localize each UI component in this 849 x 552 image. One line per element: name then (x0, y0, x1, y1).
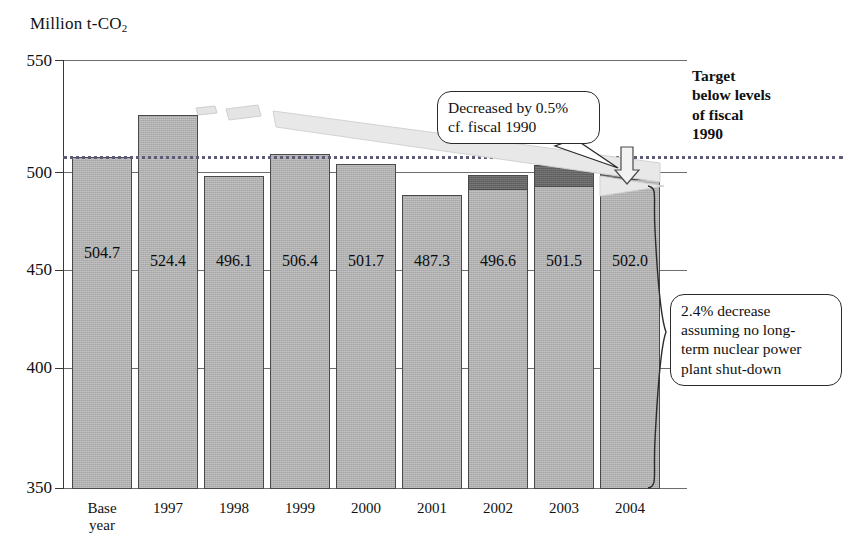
target-dotted-line (63, 156, 843, 159)
bar-value-base-year: 504.7 (72, 245, 132, 261)
nuclear-callout-line-2: assuming no long- (681, 320, 832, 339)
x-tick-label-base-year-line-2: year (67, 517, 137, 534)
bar-value-2001: 487.3 (402, 253, 462, 269)
decrease-callout-line-1: Decreased by 0.5% (448, 98, 590, 117)
y-tick-label-400: 400 (6, 359, 52, 376)
bar-value-2000: 501.7 (336, 253, 396, 269)
bar-value-2002: 496.6 (468, 253, 528, 269)
bar-2000 (336, 164, 396, 489)
nuclear-callout-line-1: 2.4% decrease (681, 301, 832, 320)
y-tick-label-550: 550 (6, 52, 52, 69)
target-note-line-1: Target (692, 66, 842, 85)
y-tick-label-350: 350 (6, 479, 52, 496)
x-tick-label-2004: 2004 (595, 500, 665, 517)
gridline-550 (63, 60, 687, 61)
nuclear-callout-line-4: plant shut-down (681, 359, 832, 378)
decrease-callout-line-2: cf. fiscal 1990 (448, 117, 590, 136)
target-note: Target below levels of fiscal 1990 (692, 66, 842, 144)
bar-2004 (600, 179, 660, 489)
x-tick-label-1998: 1998 (199, 500, 269, 517)
bar-value-1999: 506.4 (270, 253, 330, 269)
x-tick-label-2000: 2000 (331, 500, 401, 517)
y-tick-label-500: 500 (6, 164, 52, 181)
bar-2001 (402, 195, 462, 489)
x-tick-label-base-year: Base year (67, 500, 137, 534)
bar-2003 (534, 186, 594, 489)
bar-2002 (468, 189, 528, 489)
bar-value-1997: 524.4 (138, 253, 198, 269)
x-tick-label-2003: 2003 (529, 500, 599, 517)
x-tick-label-base-year-line-1: Base (67, 500, 137, 517)
y-tick-label-450: 450 (6, 261, 52, 278)
bar-2004-nuclear-segment (600, 164, 660, 180)
bar-value-2003: 501.5 (534, 253, 594, 269)
bar-1999 (270, 154, 330, 489)
target-note-line-4: 1990 (692, 124, 842, 143)
nuclear-callout-line-3: term nuclear power (681, 339, 832, 358)
bar-base-year (72, 157, 132, 489)
bar-value-2004: 502.0 (600, 253, 660, 269)
bar-1997 (138, 115, 198, 489)
bar-1998 (204, 176, 264, 489)
x-tick-label-2001: 2001 (397, 500, 467, 517)
chart-root: Million t-CO2 550 500 450 400 350 504.7 … (0, 0, 849, 552)
decrease-callout: Decreased by 0.5% cf. fiscal 1990 (437, 91, 600, 144)
bar-value-1998: 496.1 (204, 253, 264, 269)
x-tick-label-1997: 1997 (133, 500, 203, 517)
y-axis-unit-subscript: 2 (122, 22, 128, 34)
bar-2003-nuclear-segment (534, 165, 594, 187)
x-tick-label-1999: 1999 (265, 500, 335, 517)
target-note-line-3: of fiscal (692, 105, 842, 124)
bar-2002-nuclear-segment (468, 175, 528, 190)
nuclear-callout: 2.4% decrease assuming no long- term nuc… (670, 294, 842, 386)
y-axis-unit-label: Million t-CO2 (30, 14, 127, 34)
y-axis-unit-text: Million t-CO (30, 14, 122, 33)
x-tick-label-2002: 2002 (463, 500, 533, 517)
y-axis-line (63, 60, 64, 489)
target-note-line-2: below levels (692, 85, 842, 104)
